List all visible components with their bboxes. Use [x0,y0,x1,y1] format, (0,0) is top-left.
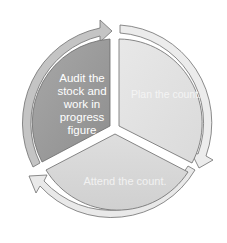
segment-label-audit: Audit the stock and work in progress fig… [50,72,114,137]
audit-line-4: progress [50,111,114,124]
audit-line-1: Audit the [50,72,114,85]
segment-label-attend: Attend the count. [70,175,180,188]
audit-line-5: figure [50,124,114,137]
audit-line-3: work in [50,98,114,111]
audit-line-2: stock and [50,85,114,98]
segment-label-plan: Plan the count. [120,88,212,101]
